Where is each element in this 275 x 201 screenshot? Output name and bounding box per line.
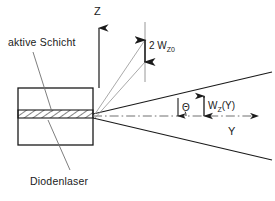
divergence-angle-label: Θ (182, 103, 190, 113)
y-axis-label: Y (228, 126, 235, 137)
beam-waist-label-subscript: Z0 (167, 46, 175, 53)
beam-waist-label-text: 2 W (149, 40, 167, 51)
beam-radius-label-suffix: (Y) (222, 100, 235, 111)
beam-radius-label-subscript: Z (217, 106, 221, 113)
active-layer-label: aktive Schicht (8, 37, 76, 48)
diagram-canvas: Z Y aktive Schicht Diodenlaser 2 WZ0 WZ(… (0, 0, 275, 201)
diode-laser-label: Diodenlaser (30, 176, 88, 187)
beam-waist-guides (95, 40, 145, 118)
beam-radius-label: WZ(Y) (208, 101, 235, 111)
z-axis-label: Z (94, 6, 101, 17)
active-layer-stripe (18, 110, 93, 118)
beam-waist-label: 2 WZ0 (149, 41, 175, 51)
